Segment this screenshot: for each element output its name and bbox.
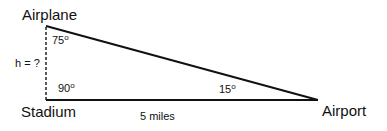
stadium-label: Stadium <box>21 104 76 119</box>
airport-label: Airport <box>322 103 366 118</box>
degree-icon: o <box>70 81 74 90</box>
degree-icon: o <box>231 82 235 91</box>
hypotenuse-line <box>46 26 318 100</box>
base-label: 5 miles <box>140 111 175 122</box>
angle-stadium-value: 90 <box>58 82 70 94</box>
angle-airport-value: 15 <box>219 83 231 95</box>
height-label: h = ? <box>15 58 40 69</box>
angle-stadium: 90o <box>58 83 75 94</box>
airplane-label: Airplane <box>22 7 77 22</box>
angle-airplane: 75o <box>52 35 69 46</box>
angle-airport: 15o <box>219 84 236 95</box>
degree-icon: o <box>64 33 68 42</box>
triangle-diagram: Airplane Stadium Airport h = ? 5 miles 7… <box>0 0 387 131</box>
angle-airplane-value: 75 <box>52 34 64 46</box>
